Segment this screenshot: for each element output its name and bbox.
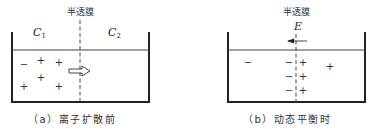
positive-ion: + — [299, 71, 307, 82]
positive-ion: + — [299, 85, 307, 96]
panel-a: 半透膜 C1 C2 − + + + + + （a）离子扩散前 — [12, 6, 149, 125]
panel-b: 半透膜 E − − − − + + + + （b）动态平衡时 — [228, 6, 365, 125]
positive-ion: + — [326, 61, 334, 72]
caption-b: （b）动态平衡时 — [243, 113, 331, 125]
positive-ion: + — [20, 81, 28, 92]
caption-a: （a）离子扩散前 — [28, 113, 116, 125]
concentration-c2-label: C2 — [108, 26, 121, 40]
positive-ion: + — [55, 81, 63, 92]
negative-ion: − — [285, 71, 293, 82]
concentration-c1-label: C1 — [33, 26, 46, 40]
positive-ion: + — [37, 55, 45, 66]
field-arrow-icon — [287, 39, 294, 44]
container-a — [12, 32, 149, 102]
ion-diffusion-diagram: 半透膜 C1 C2 − + + + + + （a）离子扩散前 半透膜 E − −… — [0, 0, 370, 138]
field-e-label: E — [293, 20, 302, 33]
negative-ion: − — [20, 59, 28, 70]
membrane-label-b: 半透膜 — [283, 6, 310, 17]
positive-ion: + — [299, 57, 307, 68]
positive-ion: + — [37, 72, 45, 83]
membrane-label-a: 半透膜 — [67, 6, 94, 17]
negative-ion: − — [244, 57, 252, 68]
diffusion-arrow-icon — [69, 66, 90, 76]
negative-ion: − — [285, 85, 293, 96]
negative-ion: − — [285, 57, 293, 68]
positive-ion: + — [55, 57, 63, 68]
